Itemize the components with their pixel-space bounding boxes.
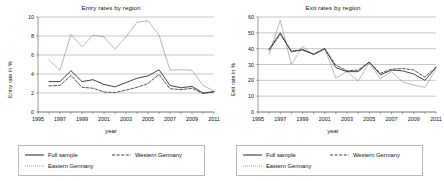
x-tick-label: 1999 <box>297 116 309 122</box>
x-tick-label: 2009 <box>186 116 198 122</box>
y-tick-label: 20 <box>248 77 254 83</box>
y-tick-label: 4 <box>31 71 34 77</box>
legend-grid: Full sampleWestern GermanyEastern German… <box>19 146 204 175</box>
y-tick-label: 0 <box>251 109 254 115</box>
plot-area-entry: 0246810199519971999200120032005200720092… <box>0 0 222 148</box>
x-tick-label: 1999 <box>76 116 88 122</box>
x-tick-label: 1997 <box>54 116 66 122</box>
chart-panel-exit-rates: Exit rates by region Exit rate in % 0102… <box>222 0 444 181</box>
x-tick-label: 1995 <box>32 116 44 122</box>
legend-item-eastern-germany[interactable]: Eastern Germany <box>243 161 330 172</box>
x-axis-label-exit: year <box>222 128 444 134</box>
y-tick-label: 2 <box>31 90 34 96</box>
legend-swatch-dotted-icon <box>25 163 44 169</box>
series-line-full-sample <box>269 33 436 81</box>
series-line-western-germany <box>269 34 436 77</box>
legend-label: Full sample <box>48 152 78 158</box>
legend-label: Eastern Germany <box>266 163 311 169</box>
series-line-eastern-germany <box>269 20 436 87</box>
legend-label: Western Germany <box>353 152 400 158</box>
y-tick-label: 50 <box>248 30 254 36</box>
legend-entry-chart: Full sampleWestern GermanyEastern German… <box>18 145 205 176</box>
legend-swatch-dotted-icon <box>243 163 262 169</box>
x-tick-label: 2009 <box>408 116 420 122</box>
legend-swatch-dashed-icon <box>330 152 349 158</box>
x-tick-label: 2005 <box>363 116 375 122</box>
x-tick-label: 2011 <box>208 116 220 122</box>
legend-label: Full sample <box>266 152 296 158</box>
legend-item-full-sample[interactable]: Full sample <box>25 150 112 161</box>
x-tick-label: 2003 <box>120 116 132 122</box>
legend-item-western-germany[interactable]: Western Germany <box>112 150 199 161</box>
x-axis-label-entry: year <box>0 128 222 134</box>
y-tick-label: 0 <box>31 109 34 115</box>
legend-swatch-dashed-icon <box>112 152 131 158</box>
series-line-full-sample <box>49 70 214 93</box>
legend-grid: Full sampleWestern GermanyEastern German… <box>237 146 422 175</box>
y-tick-label: 6 <box>31 52 34 58</box>
series-line-western-germany <box>49 74 214 93</box>
legend-label: Eastern Germany <box>48 163 93 169</box>
x-tick-label: 2005 <box>142 116 154 122</box>
y-tick-label: 10 <box>248 93 254 99</box>
x-tick-label: 2001 <box>319 116 331 122</box>
legend-item-full-sample[interactable]: Full sample <box>243 150 330 161</box>
x-tick-label: 2011 <box>430 116 442 122</box>
legend-item-eastern-germany[interactable]: Eastern Germany <box>25 161 112 172</box>
x-tick-label: 2007 <box>164 116 176 122</box>
figure-container: Entry rates by region Entry rate in % 02… <box>0 0 444 181</box>
y-tick-label: 10 <box>28 14 34 20</box>
legend-exit-chart: Full sampleWestern GermanyEastern German… <box>236 145 423 176</box>
y-tick-label: 40 <box>248 46 254 52</box>
y-tick-label: 60 <box>248 14 254 20</box>
x-tick-label: 2001 <box>98 116 110 122</box>
y-tick-label: 8 <box>31 33 34 39</box>
x-tick-label: 2007 <box>386 116 398 122</box>
legend-label: Western Germany <box>135 152 182 158</box>
x-tick-label: 1995 <box>252 116 264 122</box>
legend-swatch-solid-icon <box>25 152 44 158</box>
y-tick-label: 30 <box>248 62 254 68</box>
plot-area-exit: 0102030405060199519971999200120032005200… <box>222 0 444 148</box>
legend-item-western-germany[interactable]: Western Germany <box>330 150 417 161</box>
legend-swatch-solid-icon <box>243 152 262 158</box>
x-tick-label: 1997 <box>274 116 286 122</box>
chart-panel-entry-rates: Entry rates by region Entry rate in % 02… <box>0 0 222 181</box>
x-tick-label: 2003 <box>341 116 353 122</box>
